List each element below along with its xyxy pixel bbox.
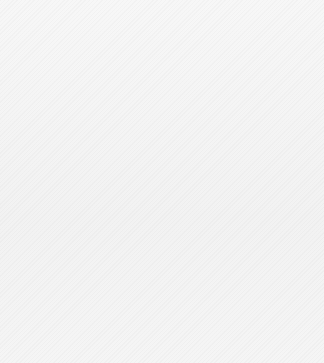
source-note: Source: Commonwealth Secretariat xyxy=(29,319,163,329)
chart-legend: Deteriorated Improved xyxy=(236,199,297,225)
page-right-edge-shading xyxy=(317,0,324,363)
legend-swatch-improved xyxy=(236,213,245,222)
legend-label-deteriorated: Deteriorated xyxy=(250,199,297,209)
figure-card: Figure 2.42 Country changes in overall Y… xyxy=(0,0,324,363)
legend-item-improved[interactable]: Improved xyxy=(236,212,297,222)
donut-value-label-deteriorated: 7 xyxy=(159,126,165,138)
legend-label-improved: Improved xyxy=(250,212,285,222)
donut-chart: 741 xyxy=(32,108,222,298)
figure-title: Figure 2.42 Country changes in overall Y… xyxy=(28,22,290,90)
legend-swatch-deteriorated xyxy=(236,200,245,209)
legend-item-deteriorated[interactable]: Deteriorated xyxy=(236,199,297,209)
donut-value-label-improved: 41 xyxy=(86,268,98,280)
page-left-edge-shading xyxy=(0,0,9,363)
donut-chart-svg: 741 xyxy=(32,108,222,298)
donut-slice-group xyxy=(32,108,222,298)
